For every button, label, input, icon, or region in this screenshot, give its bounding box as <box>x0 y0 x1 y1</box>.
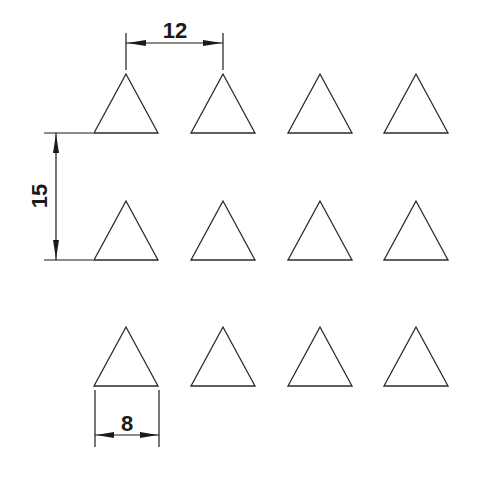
triangle-r3-c1 <box>94 327 158 386</box>
arrowhead-icon <box>203 40 222 46</box>
triangle-r1-c2 <box>191 74 255 133</box>
triangle-r2-c3 <box>288 201 352 260</box>
arrowhead-icon <box>53 134 59 153</box>
arrowhead-icon <box>127 40 146 46</box>
dimension-triangle-base: 8 <box>95 390 159 447</box>
dimension-horizontal-spacing: 12 <box>126 18 223 70</box>
arrowhead-icon <box>96 432 114 438</box>
triangle-r1-c3 <box>288 74 352 133</box>
triangle-r3-c4 <box>384 327 448 386</box>
dimension-label-12: 12 <box>163 18 187 43</box>
triangle-r2-c2 <box>191 201 255 260</box>
triangle-r3-c2 <box>191 327 255 386</box>
triangle-grid-drawing: 12 15 8 <box>0 0 482 479</box>
triangle-r1-c4 <box>384 74 448 133</box>
triangle-r2-c1 <box>94 201 158 260</box>
dimension-label-15: 15 <box>27 184 52 208</box>
triangle-grid <box>94 74 448 386</box>
dimension-label-8: 8 <box>121 411 133 436</box>
arrowhead-icon <box>53 240 59 259</box>
arrowhead-icon <box>140 432 158 438</box>
triangle-r2-c4 <box>384 201 448 260</box>
triangle-r3-c3 <box>288 327 352 386</box>
triangle-r1-c1 <box>94 74 158 133</box>
dimension-vertical-spacing: 15 <box>27 133 93 260</box>
